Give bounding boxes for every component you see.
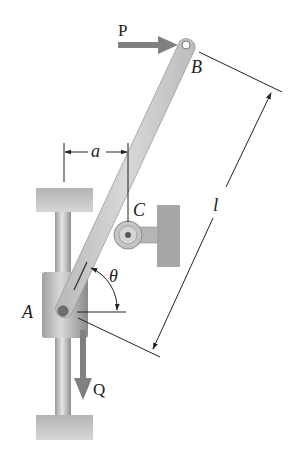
- roller-C: [114, 221, 142, 249]
- force-Q-arrow: [74, 330, 92, 400]
- bottom-support-block: [36, 415, 93, 440]
- wall-bracket-C: [157, 205, 180, 267]
- label-P: P: [118, 21, 127, 40]
- label-theta: θ: [109, 266, 118, 286]
- dim-l-extension-top: [199, 52, 282, 92]
- label-B: B: [191, 57, 202, 77]
- dim-l-extension-bottom: [78, 318, 160, 357]
- mechanism-diagram: P B l a C θ A Q: [0, 0, 296, 455]
- bar-AB: [56, 39, 196, 318]
- label-C: C: [133, 200, 146, 220]
- label-A: A: [21, 302, 34, 322]
- label-l: l: [213, 194, 218, 215]
- label-Q: Q: [93, 380, 105, 399]
- dim-l-line-upper: [226, 93, 271, 187]
- label-a: a: [91, 141, 100, 161]
- top-support-block: [36, 188, 93, 212]
